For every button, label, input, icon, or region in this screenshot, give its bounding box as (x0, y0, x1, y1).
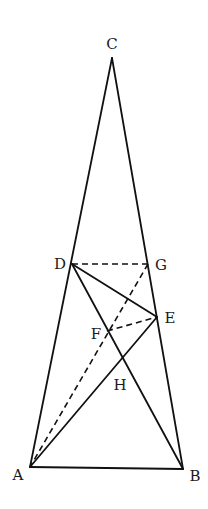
segment-AB (30, 467, 183, 469)
label-H: H (113, 376, 126, 394)
segment-FE-dashed (107, 317, 157, 331)
segment-DB (72, 264, 183, 469)
segment-DE (72, 264, 157, 317)
label-F: F (91, 325, 101, 343)
geometry-diagram: C D G E F H A B (0, 0, 208, 509)
label-G: G (155, 256, 167, 274)
label-D: D (54, 255, 66, 273)
label-E: E (165, 309, 176, 327)
label-A: A (12, 466, 24, 484)
label-B: B (189, 467, 200, 485)
segment-CA (30, 58, 112, 467)
label-C: C (106, 35, 117, 53)
